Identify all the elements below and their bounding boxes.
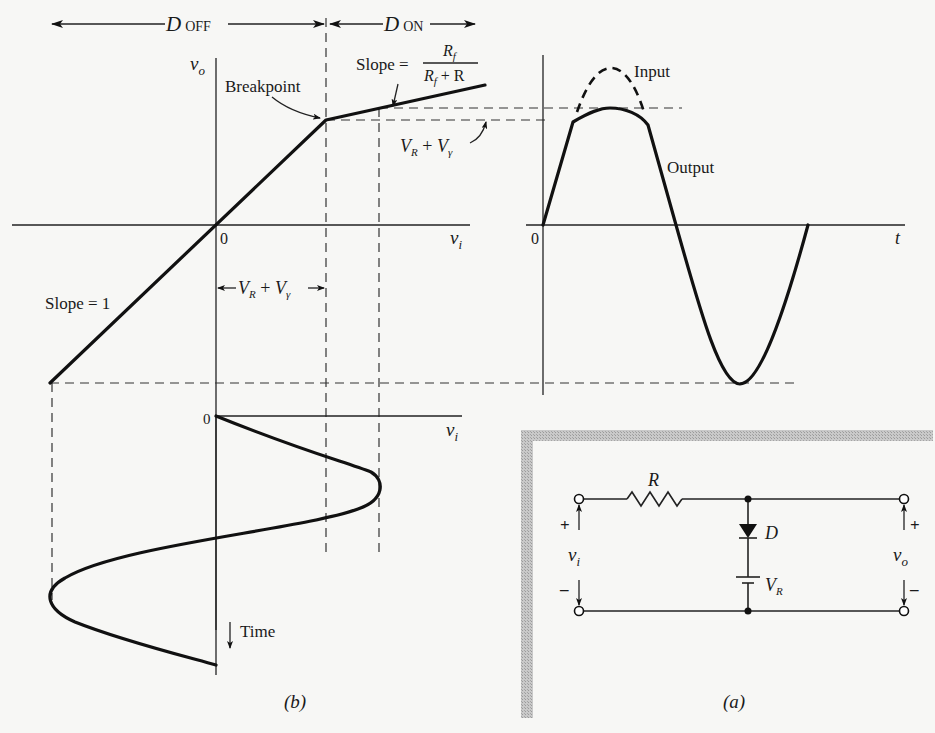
panel-frame-top: [521, 430, 933, 441]
resistor: [627, 492, 682, 506]
t-axis-label: t: [895, 228, 901, 248]
output-time-plot: 0 t Input Output: [526, 55, 905, 395]
d-on-letter: D: [383, 12, 399, 36]
battery-label: VR: [765, 575, 783, 597]
caption-b: (b): [284, 691, 306, 713]
breakpoint-label: Breakpoint: [225, 77, 301, 96]
vin-plus-terminal: [575, 495, 584, 504]
d-off-text: OFF: [185, 19, 211, 34]
d-on-text: ON: [403, 19, 423, 34]
input-time-plot: 0 vi Time (b): [50, 411, 462, 713]
diode: [739, 524, 757, 538]
vin-plus-sign: +: [560, 516, 570, 535]
output-label: Output: [667, 158, 715, 177]
vout-plus-sign: +: [910, 516, 920, 535]
svg-text:VR + Vγ: VR + Vγ: [238, 278, 291, 300]
breakpoint-arrow: [272, 97, 320, 118]
resistor-label: R: [647, 470, 659, 490]
d-off-region-arrow: DOFF: [52, 12, 324, 36]
vin-minus-sign: –: [559, 580, 569, 599]
vr-vg-dimension: VR + Vγ: [218, 278, 324, 300]
svg-text:Rf: Rf: [442, 42, 458, 62]
output-waveform: [543, 108, 808, 384]
vr-vg-threshold-label: VR + Vγ: [400, 122, 486, 158]
vout-label: vo: [893, 544, 908, 569]
vi-axis-label: vi: [450, 227, 462, 252]
vin-label: vi: [568, 544, 580, 569]
clipper-figure: DOFF DON vo 0 vi Breakpoint Slope = 1 Sl…: [0, 0, 935, 733]
d-off-letter: D: [165, 12, 181, 36]
vo-axis-label: vo: [190, 53, 205, 78]
svg-text:DON: DON: [383, 12, 423, 36]
lower-origin-label: 0: [203, 411, 211, 427]
svg-text:DOFF: DOFF: [165, 12, 211, 36]
circuit-panel: R D VR vi vo + – + – (a): [521, 430, 933, 718]
panel-frame-left: [521, 430, 533, 718]
slope-off-label: Slope = 1: [45, 294, 110, 313]
input-label: Input: [634, 62, 670, 81]
caption-a: (a): [723, 691, 745, 713]
svg-text:Slope =: Slope =: [356, 55, 409, 74]
transfer-characteristic-plot: vo 0 vi Breakpoint Slope = 1 Slope = Rf …: [12, 18, 795, 630]
time-label: Time: [240, 622, 275, 641]
lower-vi-label: vi: [446, 419, 458, 444]
svg-text:VR + Vγ: VR + Vγ: [400, 136, 453, 158]
input-vs-time-curve: [50, 416, 380, 665]
d-on-region-arrow: DON: [330, 12, 475, 36]
transfer-curve: [50, 85, 485, 383]
right-origin-label: 0: [531, 230, 539, 247]
svg-text:Rf + R: Rf + R: [423, 67, 465, 87]
origin-label: 0: [220, 230, 228, 247]
vout-plus-terminal: [900, 495, 909, 504]
slope-on-label: Slope = Rf Rf + R: [356, 42, 478, 106]
vin-minus-terminal: [575, 607, 584, 616]
vout-minus-sign: –: [909, 580, 919, 599]
diode-label: D: [764, 523, 778, 543]
vout-minus-terminal: [900, 607, 909, 616]
